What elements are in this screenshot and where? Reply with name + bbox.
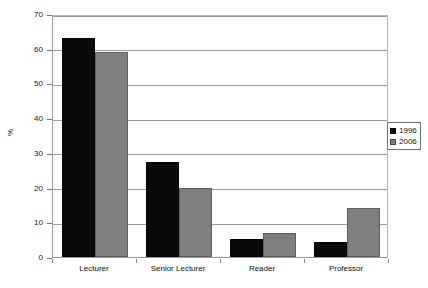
bar-chart: 010203040506070 % LecturerSenior Lecture… xyxy=(0,0,428,288)
bar-group xyxy=(53,16,137,257)
y-tick-label: 10 xyxy=(34,219,43,227)
y-tick-label: 30 xyxy=(34,150,43,158)
y-axis: 010203040506070 xyxy=(0,0,52,288)
x-tick-label: Professor xyxy=(329,264,363,273)
legend-label: 2006 xyxy=(399,138,417,146)
bar-2006-professor xyxy=(347,208,380,257)
y-tick-label: 50 xyxy=(34,80,43,88)
legend-item: 1996 xyxy=(390,125,417,136)
plot-area xyxy=(52,15,388,258)
bar-group xyxy=(305,16,389,257)
x-tick-label: Senior Lecturer xyxy=(151,264,206,273)
bar-2006-senior-lecturer xyxy=(179,188,212,257)
bar-1996-senior-lecturer xyxy=(146,162,179,257)
bar-1996-lecturer xyxy=(62,38,95,257)
legend-label: 1996 xyxy=(399,127,417,135)
x-tick-mark xyxy=(220,259,221,263)
x-tick-label: Lecturer xyxy=(79,264,108,273)
x-tick-mark xyxy=(136,259,137,263)
x-axis: LecturerSenior LecturerReaderProfessor xyxy=(52,259,388,288)
x-tick-label: Reader xyxy=(249,264,275,273)
bar-1996-reader xyxy=(230,239,263,257)
y-tick-label: 40 xyxy=(34,115,43,123)
x-tick-mark xyxy=(52,259,53,263)
bar-2006-reader xyxy=(263,233,296,257)
legend: 19962006 xyxy=(387,122,421,150)
y-tick-label: 70 xyxy=(34,11,43,19)
bar-2006-lecturer xyxy=(95,52,128,257)
x-tick-mark xyxy=(304,259,305,263)
bar-group xyxy=(221,16,305,257)
bar-group xyxy=(137,16,221,257)
y-tick-label: 60 xyxy=(34,46,43,54)
legend-item: 2006 xyxy=(390,136,417,147)
y-tick-label: 20 xyxy=(34,185,43,193)
y-tick-label: 0 xyxy=(39,254,43,262)
bars-layer xyxy=(53,16,387,257)
legend-swatch-icon xyxy=(390,128,396,134)
legend-swatch-icon xyxy=(390,139,396,145)
x-tick-mark xyxy=(388,259,389,263)
y-axis-title: % xyxy=(6,129,15,136)
bar-1996-professor xyxy=(314,242,347,257)
